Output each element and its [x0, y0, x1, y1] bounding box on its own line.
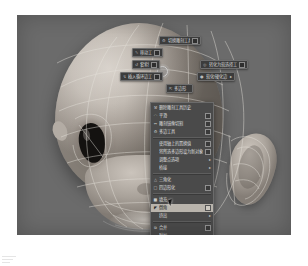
context-menu-item-7[interactable]: 桥接▸	[151, 164, 213, 172]
option-box-11[interactable]	[205, 205, 211, 211]
option-box-2[interactable]	[151, 62, 157, 68]
submenu-arrow-6: ▸	[207, 156, 211, 164]
mirror-icon: ↔	[153, 120, 158, 128]
arrow-icon: ⇱	[169, 84, 172, 93]
option-box-3[interactable]	[154, 74, 160, 80]
sculpt-icon: ⚒	[153, 104, 158, 112]
context-menu-item-2[interactable]: ↔雕刻镜像切割	[151, 120, 213, 128]
context-menu-label-2: 雕刻镜像切割	[159, 120, 203, 128]
3d-viewport[interactable]: ⚙ 切换雕刻工具 ✎ 移动工具 ↺ 套索键 ↯ 插入循环边工具 ◎ 转化	[17, 15, 291, 235]
context-menu-item-5[interactable]: 将所选多边形设为新对象	[151, 148, 213, 156]
marking-menu-item-4[interactable]: ◎ 转化为软选择工具	[200, 60, 248, 69]
fill-icon: ■	[153, 196, 158, 204]
marking-menu-label-1: 移动工具	[140, 48, 152, 57]
context-menu-item-12[interactable]: 挤出▸	[151, 212, 213, 220]
context-menu-item-13[interactable]: ⧉合并	[151, 224, 213, 232]
context-menu-label-9: 四边形化	[159, 184, 203, 192]
smooth-icon: ◠	[153, 112, 158, 120]
tri-icon: △	[153, 176, 158, 184]
context-menu-item-8[interactable]: △三角化	[151, 176, 213, 184]
context-menu-label-1: 平滑	[159, 112, 203, 120]
marking-menu-item-6[interactable]: ⇱ 多边形	[166, 84, 193, 93]
option-box-4[interactable]	[205, 141, 211, 147]
option-box-13[interactable]	[205, 225, 211, 231]
brush-icon: ✎	[135, 48, 138, 57]
context-menu-item-1[interactable]: ◠平滑	[151, 112, 213, 120]
marking-menu-label-5: 软化/硬化边	[206, 72, 228, 81]
context-menu-item-14[interactable]: 附加	[151, 232, 213, 235]
option-box-0[interactable]	[192, 38, 198, 44]
paint-icon: ●	[200, 72, 204, 81]
context-menu-item-4[interactable]: 使用轴上的置换值	[151, 140, 213, 148]
corner-watermark	[2, 255, 16, 264]
context-menu-item-11[interactable]: ◤倒角	[151, 204, 213, 212]
merge-icon: ⧉	[153, 224, 158, 232]
context-menu-label-11: 倒角	[159, 204, 203, 212]
option-box-1[interactable]	[154, 50, 160, 56]
marking-menu-item-2[interactable]: ↺ 套索键	[132, 60, 160, 69]
quad-icon: □	[153, 184, 158, 192]
submenu-arrow-12: ▸	[207, 212, 211, 220]
context-menu-item-10[interactable]: ■填充	[151, 196, 213, 204]
wrench-icon: ⚙	[162, 36, 166, 45]
marking-menu-label-2: 套索键	[140, 60, 149, 69]
submenu-arrow-7: ▸	[207, 164, 211, 172]
menu-separator	[153, 193, 211, 195]
marking-menu-item-1[interactable]: ✎ 移动工具	[132, 48, 163, 57]
option-box-5[interactable]	[205, 149, 211, 155]
context-menu-item-0[interactable]: ⚒删除雕刻工具历史	[151, 104, 213, 112]
screenshot-root: ⚙ 切换雕刻工具 ✎ 移动工具 ↺ 套索键 ↯ 插入循环边工具 ◎ 转化	[0, 0, 308, 266]
marking-menu-item-5[interactable]: ● 软化/硬化边 ▸	[197, 72, 235, 81]
bevel-icon: ◤	[153, 204, 158, 212]
context-menu-label-0: 删除雕刻工具历史	[159, 104, 211, 112]
option-box-3[interactable]	[205, 129, 211, 135]
option-box-4[interactable]	[239, 62, 245, 68]
option-box-2[interactable]	[205, 121, 211, 127]
context-menu-label-5: 将所选多边形设为新对象	[159, 148, 203, 156]
marking-menu-label-3: 插入循环边工具	[128, 72, 152, 81]
marking-menu-label-4: 转化为软选择工具	[209, 60, 238, 69]
polygon-context-menu[interactable]: ⚒删除雕刻工具历史◠平滑↔雕刻镜像切割⚙多边工具使用轴上的置换值将所选多边形设为…	[150, 102, 214, 235]
context-menu-label-3: 多边工具	[159, 128, 203, 136]
context-menu-label-6: 调整点选项	[159, 156, 205, 164]
context-menu-label-13: 合并	[159, 224, 203, 232]
context-menu-label-12: 挤出	[159, 212, 205, 220]
context-menu-item-3[interactable]: ⚙多边工具	[151, 128, 213, 136]
context-menu-item-9[interactable]: □四边形化	[151, 184, 213, 192]
context-menu-label-10: 填充	[159, 196, 211, 204]
context-menu-label-7: 桥接	[159, 164, 205, 172]
context-menu-label-8: 三角化	[159, 176, 211, 184]
marking-menu-item-3[interactable]: ↯ 插入循环边工具	[120, 72, 163, 81]
submenu-arrow-5: ▸	[230, 72, 232, 81]
marking-menu-label-6: 多边形	[174, 84, 190, 93]
marking-menu-item-0[interactable]: ⚙ 切换雕刻工具	[159, 36, 201, 45]
marking-menu-label-0: 切换雕刻工具	[168, 36, 190, 45]
insert-icon: ↯	[123, 72, 126, 81]
option-box-1[interactable]	[205, 113, 211, 119]
menu-separator	[153, 221, 211, 223]
menu-separator	[153, 137, 211, 139]
option-box-9[interactable]	[205, 185, 211, 191]
context-menu-label-4: 使用轴上的置换值	[159, 140, 203, 148]
tool-icon: ⚙	[153, 128, 158, 136]
target-icon: ◎	[203, 60, 207, 69]
lasso-icon: ↺	[135, 60, 138, 69]
context-menu-label-14: 附加	[159, 232, 211, 235]
context-menu-item-6[interactable]: 调整点选项▸	[151, 156, 213, 164]
menu-separator	[153, 173, 211, 175]
